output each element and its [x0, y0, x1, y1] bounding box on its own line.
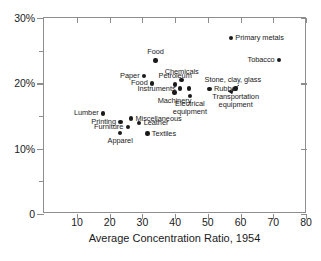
- y-tick-right-30: [301, 18, 307, 19]
- data-point: [188, 94, 192, 98]
- y-tick-right-10: [301, 149, 307, 150]
- y-tick-20: [37, 83, 44, 84]
- point-label: Instruments: [137, 84, 175, 92]
- x-tick-top-30: [142, 18, 143, 23]
- x-tick-label-20: 20: [104, 216, 116, 228]
- x-tick-label-40: 40: [169, 216, 181, 228]
- x-tick-label-50: 50: [202, 216, 214, 228]
- y-tick-right-0: [301, 214, 307, 215]
- data-point: [277, 58, 281, 62]
- point-label: Food: [147, 48, 164, 56]
- data-point: [207, 87, 211, 91]
- x-tick-top-70: [273, 18, 274, 23]
- x-tick-label-70: 70: [267, 216, 279, 228]
- y-tick-label-30: 30%: [14, 12, 35, 24]
- point-label: Apparel: [108, 137, 133, 145]
- annotation-label: Stone, clay, glass: [205, 76, 261, 84]
- data-point: [233, 86, 237, 90]
- point-label: Leather: [144, 119, 169, 127]
- x-tick-top-40: [175, 18, 176, 23]
- point-label: Primary metals: [235, 34, 284, 42]
- annotation-arrow-icon: [87, 35, 321, 231]
- point-label: Tobacco: [247, 56, 274, 64]
- y-tick-label-20: 20%: [14, 77, 35, 89]
- x-tick-top-10: [77, 18, 78, 23]
- y-tick-10: [37, 149, 44, 150]
- x-axis-title: Average Concentration Ratio, 1954: [43, 232, 306, 244]
- data-point: [126, 125, 130, 129]
- plot-area: 010%20%30%1020304050607080Primary metals…: [43, 17, 306, 213]
- data-point: [145, 131, 149, 135]
- data-point: [118, 131, 122, 135]
- data-point: [137, 121, 141, 125]
- data-point: [187, 86, 191, 90]
- point-label: Textiles: [152, 129, 176, 137]
- y-tick-0: [37, 214, 44, 215]
- x-tick-label-30: 30: [137, 216, 149, 228]
- data-point: [172, 90, 176, 94]
- x-tick-top-50: [208, 18, 209, 23]
- x-tick-top-20: [110, 18, 111, 23]
- scatter-chart: 010%20%30%1020304050607080Primary metals…: [0, 0, 321, 261]
- point-label: Transportationequipment: [212, 93, 259, 109]
- y-tick-label-10: 10%: [14, 143, 35, 155]
- point-label: Petroleum: [159, 72, 192, 80]
- y-tick-label-0: 0: [29, 208, 35, 220]
- y-tick-15: [39, 116, 44, 117]
- x-tick-label-80: 80: [300, 216, 312, 228]
- x-tick-label-60: 60: [235, 216, 247, 228]
- y-tick-5: [39, 181, 44, 182]
- data-point: [129, 116, 133, 120]
- y-tick-right-20: [301, 83, 307, 84]
- data-point: [229, 36, 233, 40]
- x-tick-label-10: 10: [71, 216, 83, 228]
- y-tick-30: [37, 18, 44, 19]
- data-point: [101, 111, 105, 115]
- data-point: [178, 86, 182, 90]
- x-tick-top-60: [241, 18, 242, 23]
- y-tick-25: [39, 51, 44, 52]
- data-point: [153, 58, 157, 62]
